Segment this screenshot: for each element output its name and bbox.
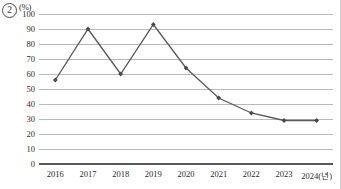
data-point-marker — [314, 118, 319, 123]
chart-figure: 2 (%) 0102030405060708090100 20162017201… — [0, 0, 341, 189]
x-axis-tick-label: 2023 — [276, 169, 293, 179]
series-line — [55, 25, 316, 121]
x-axis-tick-label: 2021 — [210, 169, 227, 179]
y-axis-tick-label: 80 — [27, 39, 36, 49]
line-series — [39, 14, 333, 164]
x-axis-tick-label: 2020 — [178, 169, 195, 179]
y-axis-tick-label: 50 — [27, 84, 36, 94]
x-axis-tick-label: 2017 — [80, 169, 97, 179]
item-number-badge: 2 — [2, 3, 17, 18]
y-axis-tick-label: 10 — [27, 144, 36, 154]
x-axis-tick-label: 2019 — [145, 169, 162, 179]
x-axis-tick-label: 2024(년) — [301, 169, 332, 181]
y-axis-tick-label: 100 — [22, 9, 35, 19]
y-axis-tick-label: 70 — [27, 54, 36, 64]
y-axis-tick-label: 30 — [27, 114, 36, 124]
y-axis-tick-label: 60 — [27, 69, 36, 79]
data-point-marker — [282, 118, 287, 123]
y-axis-tick-label: 90 — [27, 24, 36, 34]
x-axis-tick-label: 2022 — [243, 169, 260, 179]
x-axis-tick-label: 2016 — [47, 169, 64, 179]
y-axis-tick-label: 0 — [31, 159, 35, 169]
y-axis-tick-label: 40 — [27, 99, 36, 109]
x-axis-tick-label: 2018 — [112, 169, 129, 179]
data-point-marker — [249, 111, 254, 116]
plot-area: 0102030405060708090100 20162017201820192… — [39, 14, 333, 164]
y-axis-tick-label: 20 — [27, 129, 36, 139]
